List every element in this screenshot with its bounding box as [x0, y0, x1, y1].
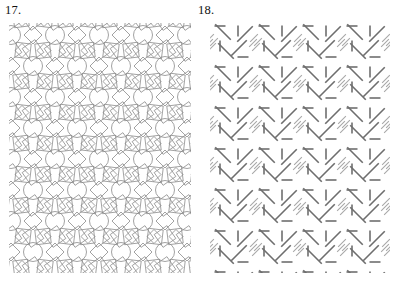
circles-and-squares-pattern-graphic — [9, 23, 191, 273]
figure-17: 17. — [0, 0, 200, 284]
figure-17-pattern-panel — [9, 23, 191, 273]
diagonal-stroke-pattern-graphic — [210, 23, 390, 273]
figure-18: 18. — [196, 0, 401, 284]
figure-sheet: 17. 18. — [0, 0, 401, 284]
figure-17-label: 17. — [5, 3, 21, 17]
figure-18-pattern-panel — [210, 23, 390, 273]
figure-18-label: 18. — [198, 3, 214, 17]
